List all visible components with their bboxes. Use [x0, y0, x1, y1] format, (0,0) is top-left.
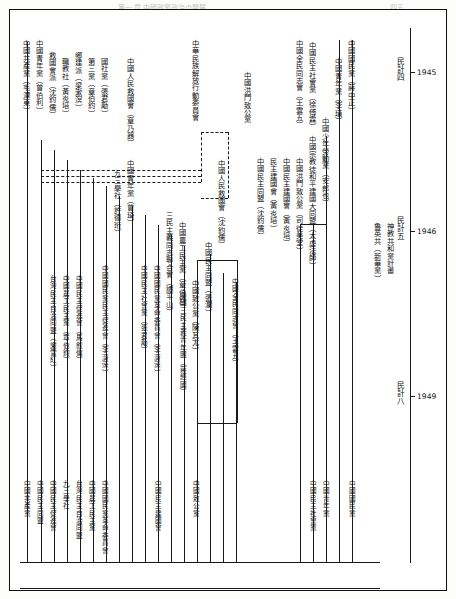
inner-label-02: 中國國民黨民主促進會（李濟深） [100, 265, 107, 376]
branch-label-6: 第三黨（章伯鈞） [87, 58, 95, 117]
timeline-tick-1949 [410, 396, 415, 397]
bottom-label-12: 中國國民黨 [347, 480, 354, 517]
inner-label-17: 中國洪門致公黨（司徒美堂） [295, 158, 303, 254]
inner-label-10: 中國致公黨（陳其尤） [191, 280, 199, 354]
branch-label-9: 中國人民救國會（章乃器） [126, 58, 134, 147]
year-label-1946: 1946 [417, 227, 436, 236]
branch-label-1: 中國共產黨（毛澤東） [22, 40, 30, 114]
bottom-label-6: 中國農工民主黨 [87, 480, 94, 532]
timeline-tick-1945 [410, 72, 415, 73]
year-label-1949: 1949 [417, 392, 436, 401]
era-label-1949: 民計八 [394, 381, 405, 405]
inner-label-01: 三民主義同志聯合會（譚平山） [165, 212, 173, 316]
inner-label-13: 中國民主同盟（張瀾） [204, 242, 212, 316]
lineage-line-21 [339, 110, 340, 562]
lineage-line-8 [119, 196, 120, 562]
branch-label-19: 中國國民黨（蔣中正） [347, 40, 355, 114]
bottom-label-9: 中國致公黨 [191, 480, 198, 517]
timeline-axis [410, 28, 411, 563]
inner-label-14: 中國國民黨革命委員會（李濟深） [152, 265, 159, 376]
branch-label-3: 救國會派（沈鈞儒） [48, 52, 56, 119]
branch-label-7: 國社黨（張君勱） [100, 58, 108, 117]
inner-label-07: 中國人民救國會（沈鈞儒） [217, 160, 225, 249]
branch-label-11: 中華民族解放行動委員會 [191, 40, 199, 121]
bottom-band-bottom-rule [20, 588, 380, 589]
timeline-tick-1946 [410, 231, 415, 232]
inner-label-06: 中國農工民主黨（章伯鈞） [61, 275, 68, 364]
bottom-band-top-rule [20, 562, 380, 563]
branch-label-16: 中國少年勞動黨（安郎也） [321, 118, 329, 207]
branch-label-5: 鄉建派（梁漱溟） [74, 52, 82, 111]
inner-label-09: 中國民主建國會（黃炎培） [282, 158, 290, 247]
merge-connector-9 [197, 423, 237, 424]
inner-label-23: 神教共和黨計畫 [386, 223, 394, 275]
bottom-label-10: 中國民主社會黨 [308, 480, 315, 532]
inner-label-16: 中國民主社會黨（張君勱） [139, 265, 146, 354]
lineage-line-16 [223, 273, 224, 562]
lineage-line-18 [300, 224, 301, 562]
branch-label-18: 中國青年黨（李璜） [334, 58, 342, 125]
bottom-label-11: 中國青年黨 [321, 480, 328, 517]
bottom-label-5: 台灣民主自治同盟 [74, 480, 81, 539]
bottom-label-1: 中國共產黨 [22, 480, 29, 517]
inner-label-05: 台灣民主自治同盟（謝雪紅） [48, 275, 55, 371]
branch-label-2: 中國青年黨（曾伯利） [35, 40, 43, 114]
bottom-label-3: 中國民主促進會 [48, 480, 55, 532]
bottom-label-8: 中國民主建國會 [153, 480, 160, 532]
inner-label-11: 九三學社（許德珩） [113, 170, 121, 237]
merge-connector-8 [197, 260, 237, 261]
scanned-page: 第一 章 中國政黨政治の発展 四五 民計四 1945 民計五 1946 民計八 … [0, 0, 456, 599]
bottom-label-4: 九三學社 [61, 480, 68, 510]
inner-label-21: 中國全民同志會（王雲五） [230, 278, 237, 367]
lineage-line-9 [132, 206, 133, 562]
inner-label-04: 民主建國會（黃炎培） [269, 158, 277, 232]
branch-label-4: 職教社（黃炎培） [61, 58, 69, 117]
branch-label-12: 中國洪門致公黨 [243, 72, 251, 124]
inner-label-22: 魯英共（新華黨） [373, 223, 381, 282]
inner-label-15: 中國青年黨（曾琦） [126, 160, 134, 227]
era-label-1946: 民計五 [394, 216, 405, 240]
bottom-label-7: 中國國民黨革命委員會 [100, 480, 107, 554]
inner-label-03: 中國民主同盟（沈鈞儒） [256, 158, 264, 239]
merge-connector-6 [201, 132, 228, 133]
inner-label-08: 中國民主促進會（馬叙倫） [74, 275, 81, 364]
inner-label-20: 中國三民主義青年團（蔣經國） [178, 292, 185, 396]
year-label-1945: 1945 [417, 68, 436, 77]
branch-label-21: 中國全民同志會（王雲五） [295, 40, 303, 129]
branch-label-20: 中國民主社會黨（徐傅霖） [308, 42, 316, 131]
merge-connector-5 [228, 132, 229, 198]
diagram-frame: 民計四 1945 民計五 1946 民計八 1949 [9, 9, 447, 591]
bottom-label-2: 中國民主同盟 [35, 480, 42, 524]
merge-connector-4 [201, 132, 202, 182]
era-label-1945: 民計四 [394, 57, 405, 81]
